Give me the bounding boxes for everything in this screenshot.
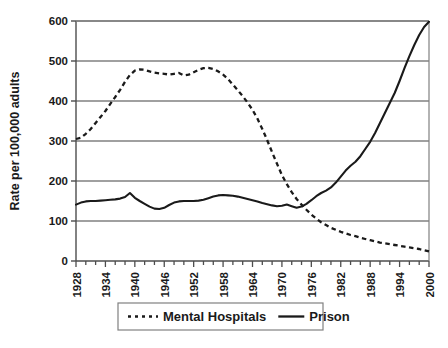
- y-axis-title: Rate per 100,000 adults: [8, 71, 22, 210]
- chart-container: 0100200300400500600 19281934194019461952…: [0, 0, 448, 348]
- legend-label: Prison: [309, 309, 350, 324]
- x-tick-label: 1946: [159, 272, 171, 298]
- x-tick-label: 1976: [306, 272, 318, 298]
- x-tick-label: 1934: [100, 271, 112, 297]
- y-tick-label: 200: [49, 175, 68, 187]
- x-tick-label: 1994: [394, 271, 406, 297]
- y-tick-label: 400: [49, 95, 68, 107]
- x-tick-label: 1970: [276, 272, 288, 298]
- line-chart: 0100200300400500600 19281934194019461952…: [0, 0, 448, 348]
- y-tick-label: 100: [49, 215, 68, 227]
- x-tick-label: 1982: [335, 272, 347, 298]
- y-tick-label: 500: [49, 55, 68, 67]
- x-tick-label: 1928: [71, 271, 83, 297]
- x-tick-label: 2000: [424, 272, 436, 298]
- x-tick-label: 1940: [129, 272, 141, 298]
- chart-legend: Mental HospitalsPrison: [118, 303, 350, 330]
- x-tick-label: 1964: [247, 271, 259, 297]
- x-tick-label: 1958: [218, 271, 230, 297]
- legend-label: Mental Hospitals: [163, 309, 266, 324]
- x-tick-label: 1952: [188, 272, 200, 298]
- y-tick-label: 0: [62, 255, 68, 267]
- y-tick-label: 300: [49, 135, 68, 147]
- y-tick-label: 600: [49, 15, 68, 27]
- x-tick-label: 1988: [365, 271, 377, 297]
